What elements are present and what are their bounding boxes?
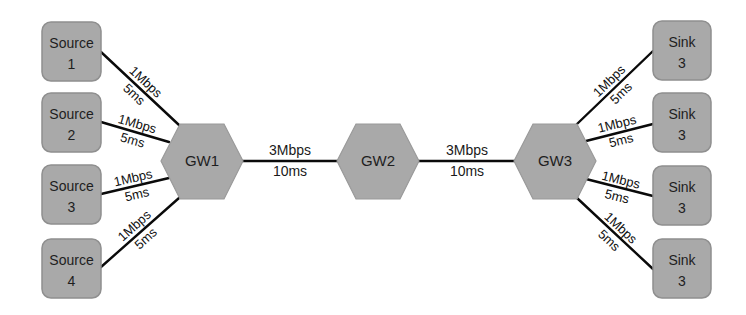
- sink-node-4: Sink 3: [653, 239, 711, 298]
- trunk-2-delay-label: 10ms: [450, 163, 484, 179]
- source-3-label-line2: 3: [68, 199, 76, 215]
- gw3-label: GW3: [538, 152, 572, 169]
- gateway-node-gw1: GW1: [161, 124, 243, 199]
- gw1-label: GW1: [185, 152, 219, 169]
- sink-3-label-line1: Sink: [668, 179, 696, 195]
- gateway-node-gw2: GW2: [337, 124, 419, 199]
- sink-3-label-line2: 3: [678, 200, 686, 216]
- source-2-label-line2: 2: [68, 127, 76, 143]
- trunk-1-delay-label: 10ms: [273, 163, 307, 179]
- source-1-label-line2: 1: [68, 56, 76, 72]
- source-node-1: Source 1: [42, 22, 101, 81]
- source-4-label-line1: Source: [49, 252, 94, 268]
- link-gw3-sink4: [577, 198, 653, 269]
- network-topology-diagram: Source 1 Source 2 Source 3 Source 4 Sink…: [0, 0, 746, 315]
- sink-node-1: Sink 3: [653, 21, 711, 80]
- source-node-2: Source 2: [42, 93, 101, 152]
- source-2-label-line1: Source: [49, 106, 94, 122]
- source-3-label-line1: Source: [49, 178, 94, 194]
- sink-2-label-line2: 3: [678, 127, 686, 143]
- sink-node-2: Sink 3: [653, 93, 711, 152]
- sink-1-label-line1: Sink: [668, 34, 696, 50]
- source-node-4: Source 4: [42, 239, 101, 298]
- source-1-label-line1: Source: [49, 35, 94, 51]
- sink-1-label-line2: 3: [678, 55, 686, 71]
- gateway-node-gw3: GW3: [514, 124, 596, 199]
- trunk-1-bandwidth-label: 3Mbps: [269, 142, 311, 158]
- sink-node-3: Sink 3: [653, 166, 711, 225]
- right-link-2-delay-label: 5ms: [607, 130, 635, 151]
- source-node-3: Source 3: [42, 165, 101, 224]
- sink-4-label-line1: Sink: [668, 252, 696, 268]
- sink-4-label-line2: 3: [678, 273, 686, 289]
- sink-2-label-line1: Sink: [668, 106, 696, 122]
- source-4-label-line2: 4: [68, 273, 76, 289]
- trunk-2-bandwidth-label: 3Mbps: [446, 142, 488, 158]
- gw2-label: GW2: [361, 152, 395, 169]
